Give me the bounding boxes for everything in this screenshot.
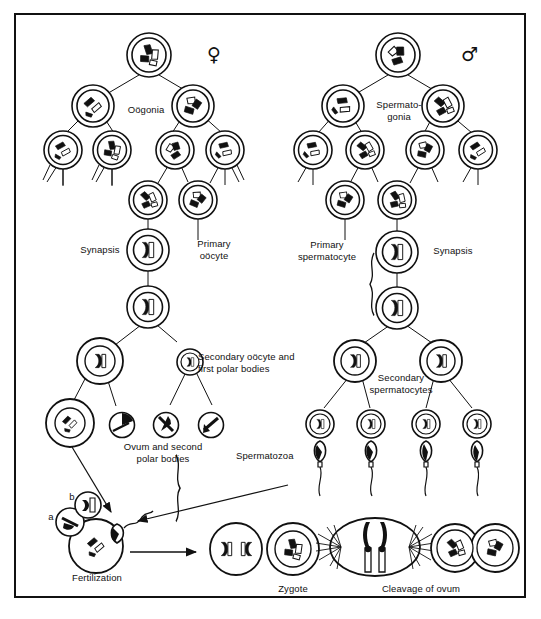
sperm-to-fertilization-arrow [138,485,288,521]
label-fertilization: Fertilization [54,572,140,584]
cleavage-spindle-cell [316,518,434,576]
female-symbol: ♀ [207,45,221,64]
female-oogonium-gen4 [129,181,217,219]
second-polar-body-3 [199,413,224,438]
label-spermatogonia: Spermato- gonia [364,99,434,122]
label-ovum: Ovum and second polar bodies [108,441,218,464]
label-secondary-spermatocytes: Secondary spermatocytes [356,372,446,395]
label-primary-oocyte: Primary oöcyte [182,238,246,261]
male-symbol: ♂ [461,45,478,64]
male-spermatogonium-gen2-left [322,85,364,127]
pronuclei-cell [210,523,262,575]
female-oogonium-gen2-left [72,85,114,127]
label-zygote: Zygote [265,583,321,595]
spermatids [306,410,491,438]
brace-primary-spermatocyte [370,253,374,316]
label-marker-a: a [46,511,56,523]
ovum [46,399,94,447]
primary-spermatocyte-tetrad [376,287,418,329]
two-cell-stage [431,524,519,572]
label-marker-b: b [67,491,77,503]
label-cleavage: Cleavage of ovum [366,583,476,595]
female-oogonium-gen3 [44,131,244,169]
label-spermatozoa: Spermatozoa [236,450,308,462]
gametogenesis-figure: ♀ ♂ Oögonia Spermato- gonia Synapsis Pri… [0,0,541,619]
secondary-oocyte [77,338,123,384]
male-spermatogonium-gen4 [326,181,416,219]
second-polar-body-2 [154,413,179,438]
label-oogonia: Oögonia [110,104,182,116]
male-spermatogonium-gen3 [294,131,497,169]
penetrating-sperm [111,511,153,543]
primary-oocyte-tetrad [127,286,169,328]
spermatozoa-group [314,441,482,496]
primary-oocyte-synapsis [127,229,169,271]
zygote-cell [267,523,319,575]
polar-body-b [75,492,101,518]
label-primary-spermatocyte: Primary spermatocyte [284,239,370,262]
label-synapsis-male: Synapsis [421,245,485,257]
diagram-canvas [0,0,541,619]
label-synapsis-female: Synapsis [68,244,132,256]
female-oogonium-gen1 [127,33,171,77]
second-polar-body-1 [110,413,135,438]
primary-spermatocyte-synapsis [376,231,418,273]
male-spermatogonium-gen1 [376,33,420,77]
label-secondary-oocyte: Secondary oöcyte and first polar bodies [198,351,332,374]
